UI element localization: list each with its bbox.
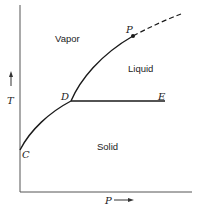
y-axis-arrowhead-icon [9, 71, 13, 77]
x-axis-label: P [104, 195, 112, 206]
sublimation-curve [20, 101, 71, 150]
dashed-extension [133, 14, 181, 36]
point-label-e: E [157, 91, 166, 102]
point-label-p: P [125, 24, 133, 35]
phase-diagram: Vapor Liquid Solid C D E P T P [0, 0, 199, 207]
region-label-solid: Solid [97, 141, 118, 152]
point-label-c: C [22, 149, 30, 160]
region-label-liquid: Liquid [128, 63, 153, 74]
point-label-d: D [60, 91, 69, 102]
diagram-canvas: Vapor Liquid Solid C D E P T P [0, 0, 199, 207]
x-axis-arrowhead-icon [128, 198, 134, 202]
region-label-vapor: Vapor [55, 33, 80, 44]
y-axis-label: T [7, 95, 15, 106]
vaporization-curve [71, 36, 133, 101]
